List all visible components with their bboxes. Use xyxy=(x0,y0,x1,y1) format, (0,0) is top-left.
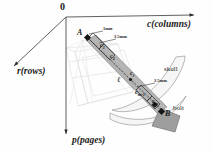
sample-label-cm-1: cm-1 xyxy=(135,89,145,98)
axis-label-rows: r(rows) xyxy=(17,67,46,77)
sample-label-c1: c1 xyxy=(100,42,105,51)
axis-label-columns: c(columns) xyxy=(147,20,191,30)
dimension-label-lower-3p5mm: 3.5mm xyxy=(154,79,167,83)
arrowhead-pages xyxy=(64,130,67,135)
sample-label-cm: cm xyxy=(152,98,158,107)
axis-label-pages: p(pages) xyxy=(72,136,105,146)
sample-label-ci: ci xyxy=(130,70,134,79)
dimension-label-1mm: 1mm xyxy=(103,27,113,31)
figure-canvas: 0 c(columns) r(rows) p(pages) A B 1mm 3.… xyxy=(0,0,212,152)
point-label-B: B xyxy=(165,110,170,118)
part-label-skull: skull xyxy=(164,66,178,73)
length-symbol-label: ℓ xyxy=(117,76,120,84)
part-label-bolt: bolt xyxy=(173,105,184,112)
dimension-label-upper-3p5mm: 3.5mm xyxy=(114,35,127,39)
origin-label: 0 xyxy=(60,2,65,12)
sample-label-c2: c2 xyxy=(110,53,115,62)
point-label-A: A xyxy=(77,29,82,37)
arrowhead-columns xyxy=(190,13,195,16)
